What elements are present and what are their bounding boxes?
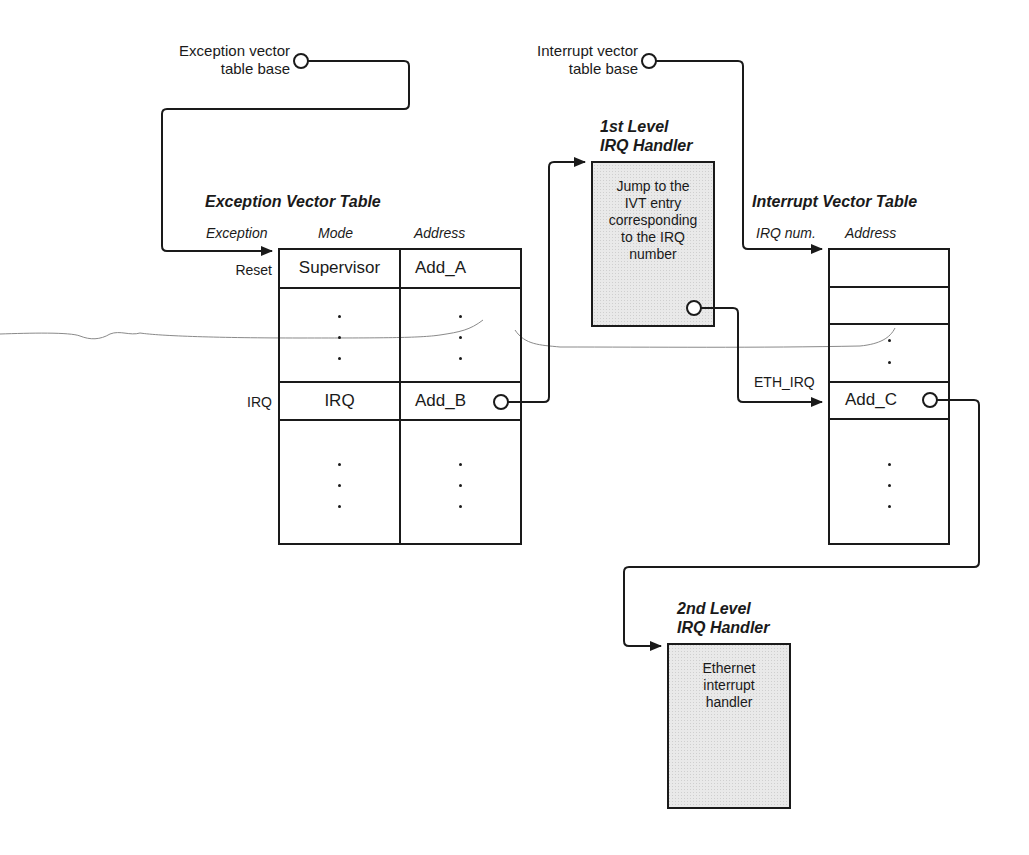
cell-mode-reset: Supervisor <box>279 258 400 278</box>
ellipsis-dot <box>459 484 462 487</box>
ellipsis-dot <box>338 357 341 360</box>
header-ivt-address: Address <box>845 225 896 241</box>
label-line: Exception vector <box>130 42 290 60</box>
ellipsis-dot <box>888 505 891 508</box>
header-irq-num: IRQ num. <box>756 225 816 241</box>
ellipsis-dot <box>459 463 462 466</box>
header-exception: Exception <box>206 225 267 241</box>
first-level-handler-title: 1st Level IRQ Handler <box>600 117 692 155</box>
second-level-handler-body: Ethernet interrupt handler <box>668 660 790 711</box>
body-line: IVT entry <box>592 195 714 212</box>
ellipsis-dot <box>338 505 341 508</box>
ellipsis-dot <box>459 336 462 339</box>
ellipsis-dot <box>459 357 462 360</box>
ellipsis-dot <box>338 336 341 339</box>
title-line: IRQ Handler <box>600 136 692 155</box>
ellipsis-dot <box>338 315 341 318</box>
interrupt-vector-table-title: Interrupt Vector Table <box>752 192 917 211</box>
ellipsis-dot <box>888 463 891 466</box>
ellipsis-dot <box>888 361 891 364</box>
title-line: 2nd Level <box>677 599 769 618</box>
body-line: corresponding <box>592 212 714 229</box>
body-line: Ethernet <box>668 660 790 677</box>
exception-vector-table-base-label: Exception vector table base <box>130 42 290 78</box>
ellipsis-dot <box>459 315 462 318</box>
cell-address-eth-irq: Add_C <box>845 390 897 410</box>
title-line: IRQ Handler <box>677 618 769 637</box>
ellipsis-dot <box>338 463 341 466</box>
row-label-reset: Reset <box>200 261 272 279</box>
second-level-handler-title: 2nd Level IRQ Handler <box>677 599 769 637</box>
connector-lines <box>0 0 1029 855</box>
cell-address-reset: Add_A <box>415 258 466 278</box>
ellipsis-dot <box>888 339 891 342</box>
label-line: table base <box>130 60 290 78</box>
body-line: handler <box>668 694 790 711</box>
label-line: table base <box>478 60 638 78</box>
interrupt-vector-table-base-label: Interrupt vector table base <box>478 42 638 78</box>
header-mode: Mode <box>318 225 353 241</box>
cell-mode-irq: IRQ <box>279 391 400 411</box>
exception-vector-table-title: Exception Vector Table <box>205 192 381 211</box>
ellipsis-dot <box>338 484 341 487</box>
body-line: interrupt <box>668 677 790 694</box>
body-line: number <box>592 246 714 263</box>
ellipsis-dot <box>888 484 891 487</box>
row-label-irq: IRQ <box>200 393 272 411</box>
label-line: Interrupt vector <box>478 42 638 60</box>
body-line: to the IRQ <box>592 229 714 246</box>
cell-address-irq: Add_B <box>415 391 466 411</box>
eth-irq-label: ETH_IRQ <box>754 373 815 391</box>
scribble-line <box>0 320 895 347</box>
ellipsis-dot <box>459 505 462 508</box>
title-line: 1st Level <box>600 117 692 136</box>
header-address: Address <box>414 225 465 241</box>
body-line: Jump to the <box>592 178 714 195</box>
first-level-handler-body: Jump to the IVT entry corresponding to t… <box>592 178 714 263</box>
